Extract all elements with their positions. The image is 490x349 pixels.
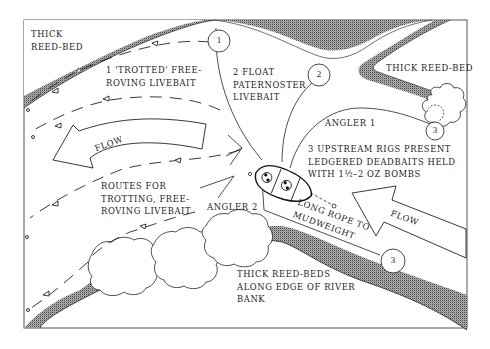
marker-3-right-label: 3 xyxy=(429,125,441,135)
label-reed-beds-bottom: THICK REED-BEDS ALONG EDGE OF RIVER BANK xyxy=(237,268,355,306)
label-rig-3: 3 UPSTREAM RIGS PRESENT LEDGERED DEADBAI… xyxy=(308,143,456,181)
label-angler-2: ANGLER 2 xyxy=(207,201,258,214)
anchor-bow xyxy=(248,172,251,175)
marker-3-bottom-label: 3 xyxy=(387,255,399,265)
label-routes: ROUTES FOR TROTTING, FREE- ROVING LIVEBA… xyxy=(101,180,191,218)
label-angler-1: ANGLER 1 xyxy=(325,117,376,130)
label-reed-bed-top-left: THICK REED-BED xyxy=(31,28,83,53)
label-reed-bed-right: THICK REED-BED xyxy=(386,62,473,75)
cast-lines-fan xyxy=(200,135,242,198)
label-rig-2: 2 FLOAT PATERNOSTER LIVEBAIT xyxy=(233,66,306,104)
marker-1-label: 1 xyxy=(213,35,225,45)
marker-2-label: 2 xyxy=(313,69,325,79)
label-rig-1: 1 'TROTTED' FREE- ROVING LIVEBAIT xyxy=(106,64,202,89)
flow-arrow-left xyxy=(53,119,206,168)
bank-top-middle xyxy=(215,20,432,59)
